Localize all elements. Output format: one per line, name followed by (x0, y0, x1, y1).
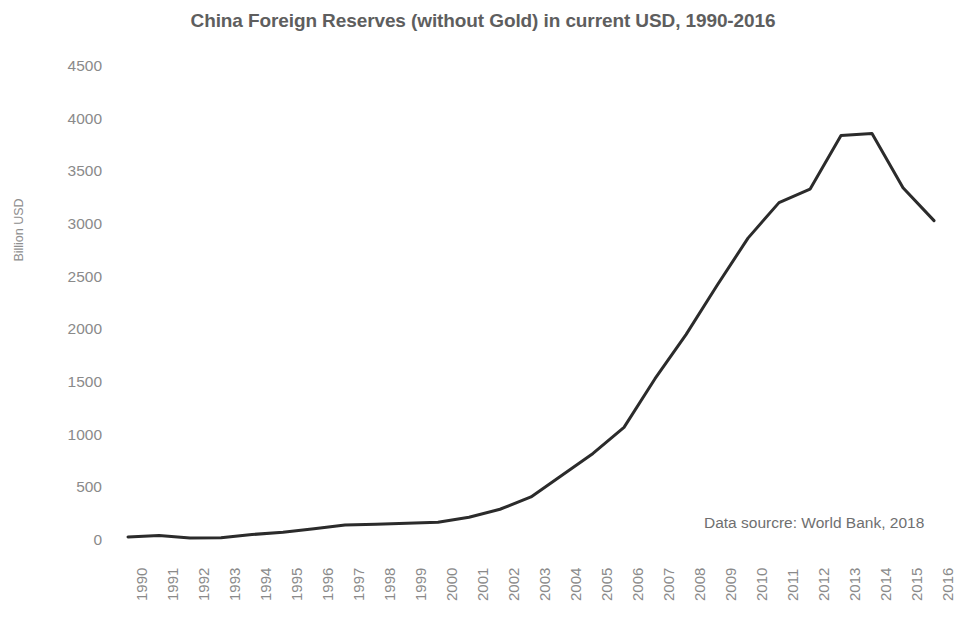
x-axis-tick: 2016 (940, 568, 955, 601)
x-axis-tick: 2013 (847, 568, 862, 601)
x-axis-tick: 2009 (723, 568, 738, 601)
x-axis-tick: 2010 (754, 568, 769, 601)
x-axis-tick: 2015 (909, 568, 924, 601)
x-axis-tick: 2002 (506, 568, 521, 601)
x-axis-tick: 2005 (599, 568, 614, 601)
x-axis-tick: 2014 (878, 568, 893, 601)
x-axis-tick: 2012 (816, 568, 831, 601)
x-axis-tick: 1999 (413, 568, 428, 601)
x-axis-tick: 2003 (537, 568, 552, 601)
x-axis-tick: 2007 (661, 568, 676, 601)
x-axis-tick: 2001 (475, 568, 490, 601)
x-axis-tick: 1994 (258, 568, 273, 601)
x-axis-tick: 2008 (692, 568, 707, 601)
chart-container: China Foreign Reserves (without Gold) in… (0, 0, 966, 617)
x-axis-tick: 1996 (320, 568, 335, 601)
x-axis-tick: 2006 (630, 568, 645, 601)
x-axis-tick: 2004 (568, 568, 583, 601)
x-axis-tick: 1991 (165, 568, 180, 601)
x-axis-tick: 1993 (227, 568, 242, 601)
x-axis-tick: 2011 (785, 569, 800, 601)
x-axis-tick: 1995 (289, 568, 304, 601)
data-source-note: Data sourcre: World Bank, 2018 (704, 514, 924, 532)
x-axis-tick: 1992 (196, 568, 211, 601)
x-axis-tick: 1997 (351, 568, 366, 601)
x-axis-tick: 2000 (444, 568, 459, 601)
x-axis-tick: 1990 (134, 568, 149, 601)
x-axis-tick: 1998 (382, 568, 397, 601)
